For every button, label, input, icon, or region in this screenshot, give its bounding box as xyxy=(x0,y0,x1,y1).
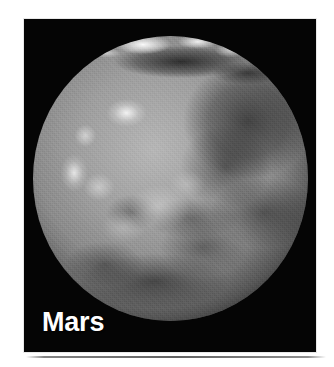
mars-photo-panel: Mars xyxy=(24,19,316,352)
mars-globe-image xyxy=(33,36,308,321)
figure-root: Mars xyxy=(0,0,334,367)
scan-artifact-line xyxy=(26,356,326,358)
planet-name-label: Mars xyxy=(42,309,104,336)
limb-darkening-shading xyxy=(33,36,308,321)
